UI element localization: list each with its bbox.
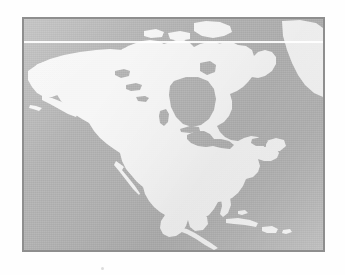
scan-tone-overlay — [24, 19, 323, 250]
map-canvas — [24, 19, 323, 250]
map-figure — [22, 17, 325, 252]
page-speck — [101, 267, 104, 270]
north-america-map-graphic — [24, 19, 323, 250]
page-background — [0, 0, 345, 275]
